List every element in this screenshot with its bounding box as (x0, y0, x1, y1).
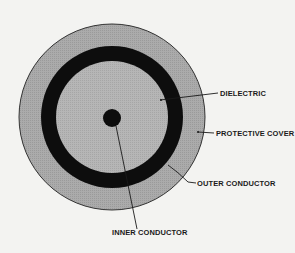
protective-cover-label: PROTECTIVE COVER (216, 129, 295, 138)
dielectric-label: DIELECTRIC (220, 89, 266, 98)
outer-conductor-label: OUTER CONDUCTOR (197, 179, 276, 188)
inner-conductor (103, 109, 121, 127)
inner-conductor-label: INNER CONDUCTOR (112, 228, 188, 237)
coax-diagram: DIELECTRIC PROTECTIVE COVER OUTER CONDUC… (0, 0, 295, 253)
